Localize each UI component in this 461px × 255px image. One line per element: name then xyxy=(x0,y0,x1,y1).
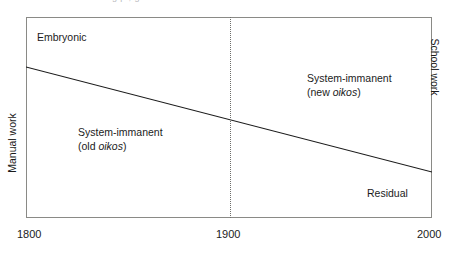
region-label-embryonic: Embryonic xyxy=(37,31,87,45)
new-oikos-suffix: ) xyxy=(357,86,361,98)
new-oikos-italic-term: oikos xyxy=(333,86,358,98)
region-label-new-oikos-line1: System-immanent xyxy=(307,72,392,86)
region-label-new-oikos-line2: (new oikos) xyxy=(307,86,392,100)
y-axis-title-left: Manual work xyxy=(6,112,18,174)
figure-container: g p , g Embryonic System-immanent (old o… xyxy=(0,0,461,255)
x-tick-label-1800: 1800 xyxy=(17,228,41,240)
cropped-caption-text: g p , g xyxy=(112,0,140,2)
old-oikos-italic-term: oikos xyxy=(98,140,123,152)
region-label-embryonic-line1: Embryonic xyxy=(37,31,87,45)
x-tick-label-2000: 2000 xyxy=(417,228,441,240)
cropped-caption-strip: g p , g xyxy=(0,0,461,9)
region-label-old-oikos: System-immanent (old oikos) xyxy=(78,126,163,153)
y-axis-title-right: School work xyxy=(429,36,441,98)
region-label-old-oikos-line1: System-immanent xyxy=(78,126,163,140)
old-oikos-suffix: ) xyxy=(123,140,127,152)
x-tick-label-1900: 1900 xyxy=(216,228,240,240)
region-label-old-oikos-line2: (old oikos) xyxy=(78,140,163,154)
old-oikos-prefix: (old xyxy=(78,140,98,152)
region-label-residual-line1: Residual xyxy=(367,187,408,201)
region-label-new-oikos: System-immanent (new oikos) xyxy=(307,72,392,99)
divider-line-1900 xyxy=(230,17,231,218)
region-label-residual: Residual xyxy=(367,187,408,201)
new-oikos-prefix: (new xyxy=(307,86,333,98)
